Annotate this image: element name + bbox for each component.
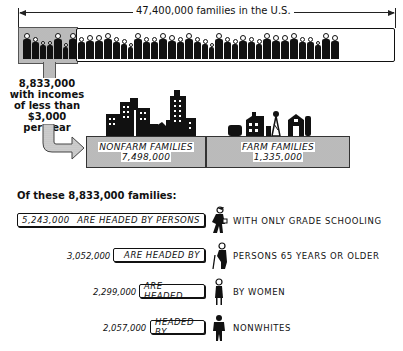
person-silhouette-icon — [209, 43, 214, 59]
farm-buildings-icon — [228, 108, 328, 136]
person-silhouette-icon — [239, 35, 247, 59]
person-silhouette-icon — [248, 37, 255, 59]
stat-value: 2,299,000 — [93, 287, 136, 297]
person-silhouette-icon — [299, 37, 306, 59]
caption-line: of less than — [4, 100, 90, 111]
total-span-right-tick — [395, 8, 396, 28]
stat-box-text: ARE HEADED BY PERSONS — [77, 215, 200, 225]
person-silhouette-icon — [143, 37, 150, 59]
person-silhouette-icon — [86, 35, 94, 59]
elderly-person-with-cane-icon — [211, 242, 229, 270]
person-silhouette-icon — [272, 35, 280, 59]
stat-box-text: ARE HEADED BY — [124, 250, 200, 260]
nonfarm-value: 7,498,000 — [121, 152, 172, 162]
person-silhouette-icon — [54, 33, 62, 59]
stat-value: 5,243,000 — [22, 215, 70, 225]
nonfarm-bar: NONFARM FAMILIES 7,498,000 — [86, 136, 206, 168]
stat-value: 2,057,000 — [103, 323, 146, 333]
farm-bar: FARM FAMILIES 1,335,000 — [206, 136, 350, 168]
person-silhouette-icon — [224, 37, 231, 59]
total-families-label: 47,400,000 families in the U.S. — [133, 5, 294, 16]
stat-box-nonwhites: HEADED BY — [150, 320, 205, 334]
nonfarm-label: NONFARM FAMILIES — [98, 142, 193, 152]
stat-box-women: ARE HEADED — [139, 284, 205, 298]
farm-label: FARM FAMILIES — [241, 142, 315, 152]
bent-arrow-icon — [40, 124, 88, 162]
person-silhouette-icon — [177, 37, 184, 59]
farm-value: 1,335,000 — [253, 152, 304, 162]
stat-box-elderly: ARE HEADED BY — [113, 248, 205, 262]
person-silhouette-icon — [69, 33, 77, 59]
stat-tail-text: PERSONS 65 YEARS OR OLDER — [233, 251, 379, 261]
person-silhouette-icon — [104, 33, 112, 59]
person-silhouette-icon — [23, 33, 31, 59]
breakdown-title: Of these 8,833,000 families: — [17, 190, 177, 201]
person-silhouette-icon — [281, 35, 289, 59]
person-silhouette-icon — [256, 39, 262, 59]
people-row — [21, 30, 391, 59]
stat-tail-text: WITH ONLY GRADE SCHOOLING — [233, 216, 382, 226]
low-income-stem — [43, 62, 56, 78]
person-silhouette-icon — [113, 37, 120, 59]
person-silhouette-icon — [263, 33, 271, 59]
stat-tail-text: NONWHITES — [233, 323, 291, 333]
person-silhouette-icon — [331, 35, 339, 59]
woman-icon — [212, 278, 226, 306]
person-silhouette-icon — [185, 33, 193, 59]
schoolboy-icon — [210, 206, 228, 234]
person-silhouette-icon — [194, 37, 201, 59]
person-silhouette-icon — [95, 35, 103, 59]
person-silhouette-icon — [307, 37, 314, 59]
person-silhouette-icon — [232, 39, 238, 59]
stat-box-grade-schooling: 5,243,000 ARE HEADED BY PERSONS — [17, 213, 205, 227]
person-silhouette-icon — [151, 37, 158, 59]
person-silhouette-icon — [215, 33, 223, 59]
person-silhouette-icon — [78, 37, 85, 59]
person-silhouette-icon — [168, 35, 176, 59]
person-silhouette-icon — [159, 33, 167, 59]
left-arrowhead-icon — [19, 10, 26, 16]
person-silhouette-icon — [290, 33, 298, 59]
person-silhouette-icon — [322, 33, 330, 59]
person-silhouette-icon — [32, 37, 39, 59]
person-silhouette-icon — [121, 39, 127, 59]
person-silhouette-icon — [202, 39, 208, 59]
stat-tail-text: BY WOMEN — [233, 287, 285, 297]
person-silhouette-icon — [40, 41, 46, 59]
person-silhouette-icon — [128, 43, 133, 59]
stat-box-text: HEADED BY — [155, 317, 200, 337]
person-silhouette-icon — [134, 33, 142, 59]
caption-line: 8,833,000 — [4, 78, 90, 89]
person-silhouette-icon — [315, 41, 321, 59]
city-skyline-icon — [104, 90, 198, 136]
person-silhouette-icon — [63, 43, 68, 59]
stat-box-text: ARE HEADED — [144, 281, 200, 301]
right-arrowhead-icon — [388, 10, 395, 16]
man-icon — [211, 314, 227, 342]
person-silhouette-icon — [47, 41, 53, 59]
caption-line: $3,000 — [4, 111, 90, 122]
caption-line: with incomes — [4, 89, 90, 100]
stat-value: 3,052,000 — [67, 251, 110, 261]
